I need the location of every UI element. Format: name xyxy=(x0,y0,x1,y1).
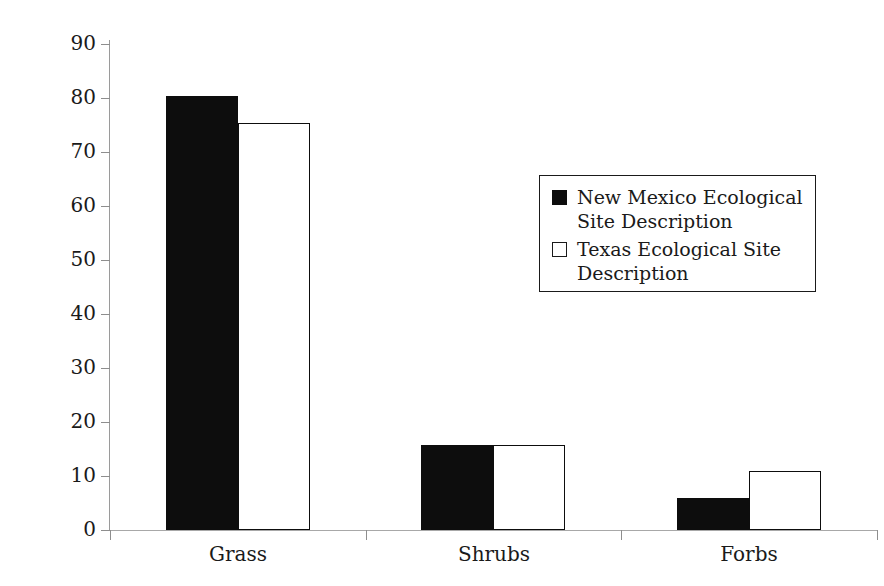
y-axis-tick-label: 50 xyxy=(50,249,96,269)
y-axis-line xyxy=(109,40,110,531)
x-axis-line xyxy=(109,530,877,531)
x-axis-category-label: Shrubs xyxy=(366,542,622,566)
y-axis-tick xyxy=(101,152,110,153)
y-axis-tick-label: 20 xyxy=(50,411,96,431)
legend-entry-label: Texas Ecological Site Description xyxy=(577,237,805,285)
legend-entry[interactable]: Texas Ecological Site Description xyxy=(552,237,805,285)
y-axis-tick xyxy=(101,98,110,99)
y-axis-tick-label: 90 xyxy=(50,33,96,53)
x-axis-separator-tick xyxy=(110,530,111,540)
x-axis-category-label: Grass xyxy=(110,542,366,566)
y-axis-tick-label: 80 xyxy=(50,87,96,107)
y-axis-tick xyxy=(101,314,110,315)
legend: New Mexico Ecological Site Description T… xyxy=(539,175,816,292)
y-axis-tick xyxy=(101,422,110,423)
y-axis-tick xyxy=(101,476,110,477)
y-axis-tick xyxy=(101,44,110,45)
y-axis-tick-label: 70 xyxy=(50,141,96,161)
y-axis-tick-label: 10 xyxy=(50,465,96,485)
bar-chart: Percent composition 0102030405060708090 … xyxy=(0,0,884,586)
x-axis-category-label: Forbs xyxy=(621,542,877,566)
bar xyxy=(238,123,310,530)
legend-entry[interactable]: New Mexico Ecological Site Description xyxy=(552,185,805,233)
x-axis-separator-tick xyxy=(366,530,367,540)
y-axis-tick-label: 0 xyxy=(50,519,96,539)
y-axis-tick xyxy=(101,260,110,261)
x-axis-separator-tick xyxy=(877,530,878,540)
y-axis-tick xyxy=(101,530,110,531)
y-axis-tick-label: 40 xyxy=(50,303,96,323)
filled-square-icon xyxy=(552,190,567,205)
y-axis-tick xyxy=(101,206,110,207)
legend-entry-label: New Mexico Ecological Site Description xyxy=(577,185,805,233)
x-axis-separator-tick xyxy=(621,530,622,540)
bar xyxy=(493,445,565,530)
y-axis-tick xyxy=(101,368,110,369)
bar xyxy=(677,498,749,530)
open-square-icon xyxy=(552,242,567,257)
bar xyxy=(421,445,493,530)
y-axis-tick-label: 60 xyxy=(50,195,96,215)
bar xyxy=(749,471,821,530)
y-axis-tick-label: 30 xyxy=(50,357,96,377)
bar xyxy=(166,96,238,530)
